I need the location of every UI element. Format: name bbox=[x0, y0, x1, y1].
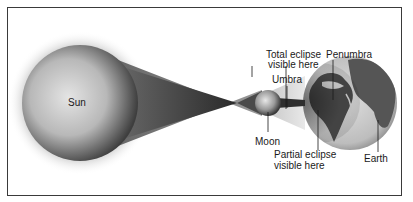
partial-eclipse-label-line2: visible here bbox=[274, 161, 325, 171]
earth-label: Earth bbox=[364, 154, 388, 164]
partial-eclipse-label-line1: Partial eclipse bbox=[274, 150, 336, 160]
umbra-label: Umbra bbox=[272, 75, 302, 85]
eclipse-illustration bbox=[0, 0, 413, 202]
total-eclipse-label-line2: visible here bbox=[268, 60, 319, 70]
moon-label: Moon bbox=[255, 137, 280, 147]
penumbra-label: Penumbra bbox=[326, 50, 372, 60]
sun-label: Sun bbox=[68, 98, 86, 108]
